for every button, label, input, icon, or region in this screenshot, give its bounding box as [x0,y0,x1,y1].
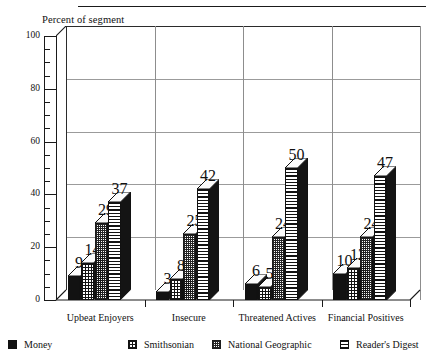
y-tick-80 [44,89,56,90]
bar-2-4 [197,179,220,300]
category-label-4: Financial Positives [296,312,432,323]
legend-item-1[interactable]: Money [8,339,52,350]
y-tick-70 [44,115,50,116]
y-tick-50 [44,168,50,169]
y-tick-20 [44,247,56,248]
plot-area: 020406080100 9 14 29 37Upbeat Enjoyers [0,0,432,362]
bar-front-face [183,234,196,300]
y-tick-10 [44,274,50,275]
bar-front-face [360,237,373,300]
bar-front-face [245,284,258,300]
y-tick-100 [44,36,56,37]
legend-label-1: Money [24,339,52,350]
bar-value-label-3-4: 50 [277,146,317,164]
chart-legend: MoneySmithsonianNational GeographicReade… [0,339,432,359]
y-tick-0 [44,300,56,301]
y-tick-label-80: 80 [6,83,40,93]
y-tick-75 [44,102,50,103]
y-tick-90 [44,62,50,63]
bar-front-face [197,189,210,300]
bar-front-face [108,202,121,300]
chart-figure: Percent of segment 020406080100 9 14 29 [0,0,432,362]
y-tick-85 [44,76,50,77]
y-tick-65 [44,128,50,129]
y-tick-35 [44,208,50,209]
bar-value-label-2-4: 42 [188,167,228,185]
bar-value-label-4-4: 47 [365,154,405,172]
y-tick-25 [44,234,50,235]
legend-swatch-icon-2 [128,340,137,349]
bar-front-face [285,168,298,300]
category-tick-3 [322,300,323,307]
bar-front-face [333,274,346,300]
legend-label-4: Reader's Digest [356,339,419,350]
y-tick-45 [44,181,50,182]
bar-front-face [374,176,387,300]
category-tick-1 [145,300,146,307]
legend-item-3[interactable]: National Geographic [212,339,312,350]
bar-front-face [272,237,285,300]
bar-value-label-1-4: 37 [100,180,140,198]
category-tick-end [410,300,411,307]
bar-4-4 [374,166,397,300]
bar-front-face [81,263,94,300]
legend-swatch-icon-1 [8,340,17,349]
y-tick-5 [44,287,50,288]
bar-front-face [95,223,108,300]
y-tick-95 [44,49,50,50]
y-tick-label-20: 20 [6,241,40,251]
bar-3-4 [285,158,308,300]
bar-front-face [347,268,360,300]
y-tick-label-40: 40 [6,188,40,198]
bar-1-4 [108,192,131,300]
category-tick-2 [233,300,234,307]
bar-front-face [258,287,271,300]
legend-label-2: Smithsonian [144,339,194,350]
bar-front-face [156,292,169,300]
y-tick-40 [44,194,56,195]
y-tick-label-100: 100 [6,30,40,40]
y-tick-30 [44,221,50,222]
y-tick-55 [44,155,50,156]
legend-item-2[interactable]: Smithsonian [128,339,194,350]
y-tick-label-0: 0 [6,294,40,304]
y-tick-label-60: 60 [6,136,40,146]
legend-label-3: National Geographic [228,339,312,350]
bar-front-face [68,276,81,300]
legend-swatch-icon-4 [340,340,349,349]
y-tick-60 [44,142,56,143]
legend-swatch-icon-3 [212,340,221,349]
bar-front-face [170,279,183,300]
legend-item-4[interactable]: Reader's Digest [340,339,419,350]
y-tick-15 [44,260,50,261]
